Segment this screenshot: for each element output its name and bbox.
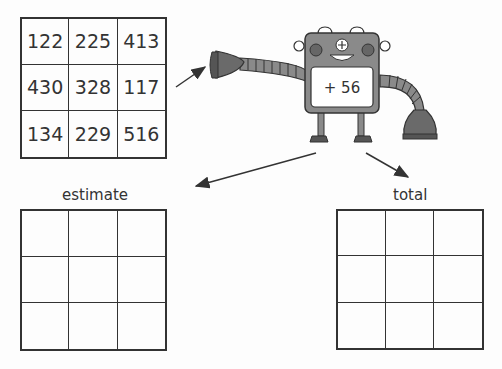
robot-left-arm: [210, 51, 308, 82]
robot-right-arm: [380, 75, 437, 139]
arrow-to-robot: [176, 67, 205, 87]
robot-illustration: + 56: [0, 0, 502, 369]
robot-eye-right: [362, 44, 374, 56]
robot-operation: + 56: [324, 79, 360, 97]
robot-legs: [310, 112, 372, 142]
arrow-to-total: [366, 153, 408, 177]
robot-eye-left: [310, 44, 322, 56]
arrow-to-estimate: [196, 153, 316, 186]
